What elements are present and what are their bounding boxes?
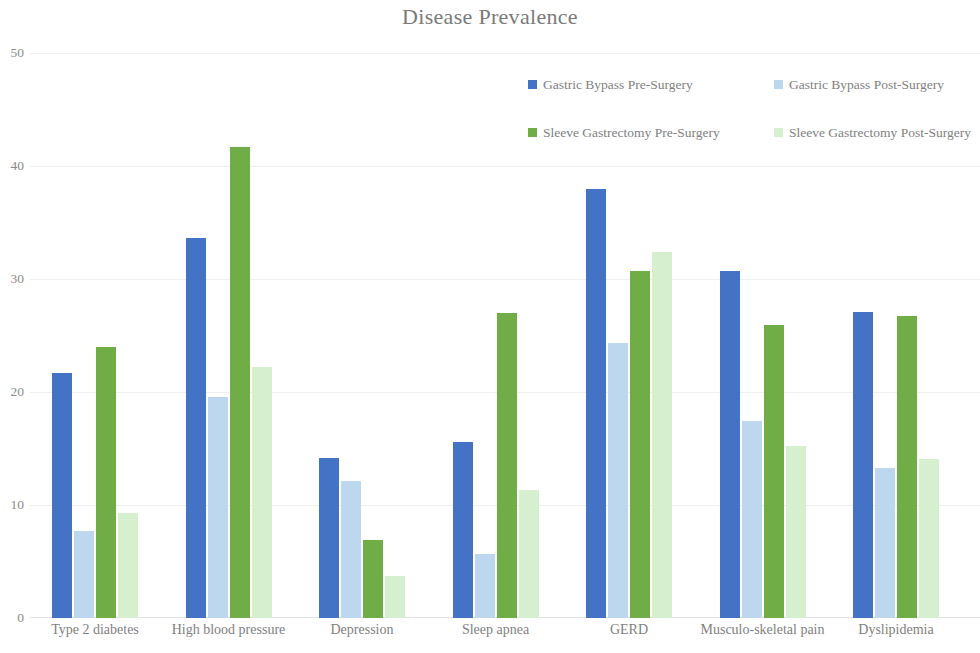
bar[interactable] xyxy=(497,313,517,618)
y-axis-tick-label: 30 xyxy=(11,271,25,287)
bar[interactable] xyxy=(186,238,206,618)
bar[interactable] xyxy=(764,325,784,618)
bar[interactable] xyxy=(720,271,740,618)
bar[interactable] xyxy=(118,513,138,618)
bar[interactable] xyxy=(74,531,94,618)
bar-group xyxy=(453,53,539,618)
bar[interactable] xyxy=(475,554,495,618)
bar[interactable] xyxy=(586,189,606,618)
y-axis-tick-label: 20 xyxy=(11,384,25,400)
x-axis-category-label: Sleep apnea xyxy=(462,622,529,638)
bar-group xyxy=(853,53,939,618)
disease-prevalence-chart: Disease Prevalence Gastric Bypass Pre-Su… xyxy=(0,0,980,653)
y-axis-tick-label: 10 xyxy=(11,497,25,513)
x-axis-category-label: Musculo-skeletal pain xyxy=(700,622,824,638)
bar[interactable] xyxy=(897,316,917,618)
bar[interactable] xyxy=(853,312,873,618)
bar-group xyxy=(186,53,272,618)
x-axis-category-label: Dyslipidemia xyxy=(858,622,933,638)
plot-area xyxy=(30,53,980,618)
bar[interactable] xyxy=(96,347,116,618)
bar-groups xyxy=(30,53,980,618)
bar[interactable] xyxy=(608,343,628,618)
bar[interactable] xyxy=(742,421,762,618)
x-axis-category-labels: Type 2 diabetesHigh blood pressureDepres… xyxy=(30,622,980,648)
bar[interactable] xyxy=(208,397,228,618)
bar[interactable] xyxy=(519,490,539,618)
y-axis-tick-labels: 01020304050 xyxy=(0,53,28,618)
bar[interactable] xyxy=(319,458,339,618)
bar[interactable] xyxy=(341,481,361,618)
x-axis-category-label: Type 2 diabetes xyxy=(51,622,139,638)
bar[interactable] xyxy=(363,540,383,618)
bar[interactable] xyxy=(652,252,672,618)
bar[interactable] xyxy=(52,373,72,618)
bar[interactable] xyxy=(875,468,895,618)
bar[interactable] xyxy=(230,147,250,618)
bar[interactable] xyxy=(453,442,473,618)
bar[interactable] xyxy=(630,271,650,618)
chart-title: Disease Prevalence xyxy=(0,4,980,30)
bar-group xyxy=(586,53,672,618)
x-axis-category-label: GERD xyxy=(610,622,648,638)
bar[interactable] xyxy=(252,367,272,618)
bar[interactable] xyxy=(919,459,939,618)
bar-group xyxy=(52,53,138,618)
y-axis-tick-label: 0 xyxy=(17,610,24,626)
y-axis-tick-label: 50 xyxy=(11,45,25,61)
x-axis-category-label: High blood pressure xyxy=(172,622,286,638)
bar-group xyxy=(319,53,405,618)
bar[interactable] xyxy=(786,446,806,618)
x-axis-category-label: Depression xyxy=(331,622,394,638)
bar-group xyxy=(720,53,806,618)
y-axis-tick-label: 40 xyxy=(11,158,25,174)
bar[interactable] xyxy=(385,576,405,618)
